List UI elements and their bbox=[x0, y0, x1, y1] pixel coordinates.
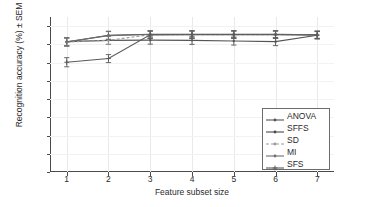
legend-swatch-icon bbox=[265, 147, 285, 157]
data-point-marker bbox=[273, 32, 278, 37]
legend-item-sd[interactable]: SD bbox=[263, 134, 329, 146]
y-tick-mark bbox=[47, 117, 51, 118]
legend-item-sfs[interactable]: SFS bbox=[263, 158, 329, 170]
y-tick-mark bbox=[47, 136, 51, 137]
legend-label: MI bbox=[287, 147, 296, 157]
legend-label: SFS bbox=[287, 159, 304, 169]
y-tick-mark bbox=[47, 99, 51, 100]
x-tick-label: 2 bbox=[106, 174, 111, 184]
data-point-marker bbox=[315, 33, 320, 38]
y-tick-mark bbox=[47, 26, 51, 27]
x-tick-label: 4 bbox=[190, 174, 195, 184]
legend-item-sffs[interactable]: SFFS bbox=[263, 122, 329, 134]
y-tick-mark bbox=[47, 154, 51, 155]
legend-label: ANOVA bbox=[287, 111, 316, 121]
y-tick-mark bbox=[47, 81, 51, 82]
data-point-marker bbox=[107, 34, 109, 36]
data-point-marker bbox=[106, 56, 111, 61]
data-point-marker bbox=[233, 40, 235, 42]
legend-swatch-icon bbox=[265, 159, 285, 169]
data-point-marker bbox=[149, 39, 151, 41]
data-point-marker bbox=[66, 41, 68, 43]
x-tick-label: 1 bbox=[64, 174, 69, 184]
legend-swatch-icon bbox=[265, 111, 285, 121]
data-point-marker bbox=[191, 39, 193, 41]
y-tick-mark bbox=[47, 63, 51, 64]
legend-item-mi[interactable]: MI bbox=[263, 146, 329, 158]
x-tick-label: 7 bbox=[315, 174, 320, 184]
legend-label: SFFS bbox=[287, 123, 309, 133]
y-tick-mark bbox=[47, 172, 51, 173]
x-tick-label: 6 bbox=[273, 174, 278, 184]
data-point-marker bbox=[231, 32, 236, 37]
y-tick-mark bbox=[47, 44, 51, 45]
figure-container: 1234567 00.10.20.30.40.50.60.70.8 Featur… bbox=[0, 0, 366, 207]
x-tick-label: 3 bbox=[148, 174, 153, 184]
data-point-marker bbox=[274, 40, 276, 42]
legend-swatch-icon bbox=[265, 135, 285, 145]
legend: ANOVASFFSSDMISFS bbox=[262, 108, 330, 170]
y-axis-label: Recognition accuracy (%) ± SEM bbox=[14, 0, 24, 140]
x-tick-label: 5 bbox=[231, 174, 236, 184]
legend-label: SD bbox=[287, 135, 299, 145]
x-axis-label: Feature subset size bbox=[50, 187, 334, 197]
data-point-marker bbox=[64, 60, 69, 65]
legend-item-anova[interactable]: ANOVA bbox=[263, 110, 329, 122]
y-axis-label-wrapper: Recognition accuracy (%) ± SEM bbox=[0, 0, 1, 1]
legend-swatch-icon bbox=[265, 123, 285, 133]
